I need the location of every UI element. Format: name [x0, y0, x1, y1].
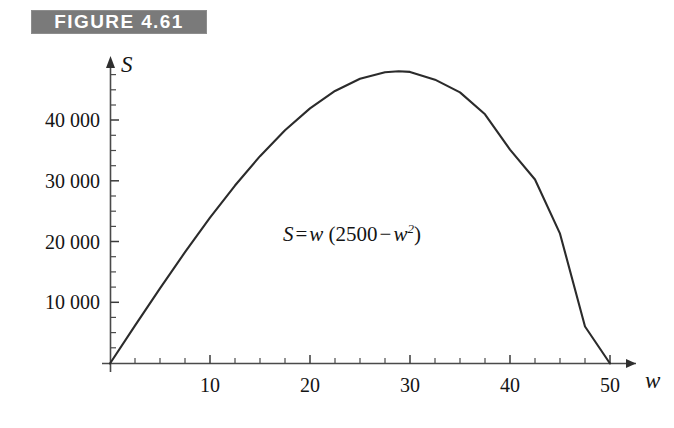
equation-open-paren: ( [329, 222, 336, 246]
y-tick-label-30000: 30 000 [0, 170, 100, 193]
x-axis [102, 359, 636, 368]
y-axis-minor-ticks [111, 75, 117, 348]
y-tick-label-20000: 20 000 [0, 231, 100, 254]
equation-annotation: S=w (2500−w2) [283, 222, 421, 247]
equation-factor: w [309, 222, 323, 246]
y-axis-label: S [121, 52, 133, 78]
x-axis-major-ticks [210, 355, 610, 364]
equation-minus: − [378, 222, 394, 246]
plot-canvas [0, 0, 674, 428]
x-axis-minor-ticks [135, 358, 585, 364]
equation-constant: 2500 [336, 222, 378, 246]
y-tick-label-40000: 40 000 [0, 109, 100, 132]
equation-close-paren: ) [414, 222, 421, 246]
x-tick-label-30: 30 [400, 374, 420, 397]
x-axis-label: w [645, 368, 660, 394]
equation-equals: = [294, 222, 310, 246]
equation-variable: w [393, 222, 407, 246]
y-axis [106, 56, 115, 372]
x-tick-label-10: 10 [200, 374, 220, 397]
x-tick-label-50: 50 [600, 374, 620, 397]
x-axis-arrow-icon [626, 359, 636, 368]
y-axis-arrow-icon [106, 56, 115, 68]
curve-path [110, 71, 610, 363]
figure-container: FIGURE 4.61 [0, 0, 674, 428]
y-tick-label-10000: 10 000 [0, 291, 100, 314]
x-tick-label-20: 20 [300, 374, 320, 397]
x-tick-label-40: 40 [500, 374, 520, 397]
equation-lhs: S [283, 222, 294, 246]
